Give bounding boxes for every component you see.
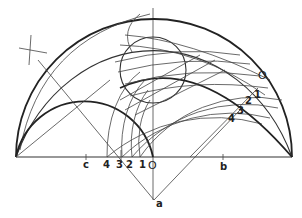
label-base-2: 2 (126, 159, 133, 170)
label-right-4: 4 (228, 113, 235, 124)
hatch-arc-2 (118, 61, 250, 72)
label-base-1: 1 (139, 159, 146, 170)
label-b: b (220, 161, 227, 172)
label-c: c (83, 159, 89, 170)
hatch-line-1 (120, 55, 200, 100)
label-right-3: 3 (237, 105, 244, 116)
label-O-top: O (258, 69, 267, 82)
label-right-2: 2 (245, 95, 252, 106)
label-right-1: 1 (254, 89, 261, 100)
upper-thin-arc (20, 14, 150, 150)
label-base-4: 4 (103, 159, 110, 170)
diag-left-to-top (16, 80, 110, 157)
label-a: a (156, 198, 163, 209)
cross-mark-h (19, 48, 47, 53)
label-base-3: 3 (116, 159, 123, 170)
outer-arc-1 (16, 19, 292, 157)
arc-div-1 (140, 97, 282, 157)
arc-div-2 (132, 104, 278, 157)
label-O-base: O (148, 159, 157, 172)
arc-div-4 (107, 118, 262, 157)
construction-diagram: O 1 2 3 4 c 4 3 2 1 O b a (0, 0, 302, 218)
